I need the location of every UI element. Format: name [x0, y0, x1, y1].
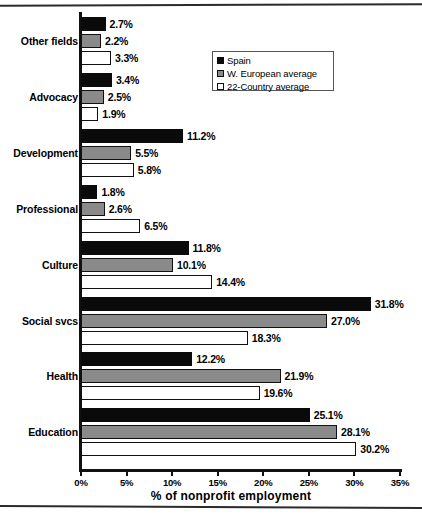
bar-health-spain [81, 352, 192, 366]
bar-development-spain [81, 129, 183, 143]
bar-advocacy-22-country-average [81, 107, 98, 121]
x-tick-20% [262, 470, 264, 476]
bar-value-label: 1.9% [98, 107, 125, 121]
bar-value-label: 21.9% [281, 369, 314, 383]
category-label-development: Development [2, 147, 78, 159]
bar-value-label: 25.1% [310, 408, 343, 422]
bar-other-fields-spain [81, 17, 106, 31]
bar-value-label: 31.8% [371, 297, 404, 311]
category-axis-labels: Other fieldsAdvocacyDevelopmentProfessio… [0, 0, 78, 524]
legend-item-spain: Spain [217, 55, 333, 67]
bar-culture-22-country-average [81, 275, 212, 289]
x-tick-25% [308, 470, 310, 476]
bar-value-label: 11.2% [183, 129, 215, 143]
x-tick-label-10%: 10% [152, 477, 192, 488]
bar-development-w-european-average [81, 146, 131, 160]
x-tick-30% [353, 470, 355, 476]
x-tick-0% [80, 470, 82, 476]
bar-value-label: 12.2% [192, 352, 225, 366]
bar-value-label: 30.2% [356, 442, 389, 456]
bar-value-label: 2.7% [106, 17, 133, 31]
category-label-advocacy: Advocacy [2, 91, 78, 103]
category-label-culture: Culture [2, 259, 78, 271]
chart-legend: Spain W. European average 22-Country ave… [212, 51, 334, 91]
bar-value-label: 10.1% [173, 258, 206, 272]
x-tick-5% [126, 470, 128, 476]
bar-health-22-country-average [81, 386, 260, 400]
x-tick-label-20%: 20% [243, 477, 283, 488]
x-tick-35% [399, 470, 401, 476]
bar-professional-22-country-average [81, 219, 140, 233]
x-tick-10% [171, 470, 173, 476]
bar-professional-spain [81, 185, 97, 199]
x-tick-label-30%: 30% [334, 477, 374, 488]
x-tick-15% [217, 470, 219, 476]
bar-advocacy-spain [81, 73, 112, 87]
bar-education-22-country-average [81, 442, 356, 456]
bar-social-svcs-22-country-average [81, 331, 248, 345]
bar-education-w-european-average [81, 425, 337, 439]
bar-value-label: 28.1% [337, 425, 370, 439]
legend-swatch-icon-spain [217, 57, 224, 64]
category-label-professional: Professional [2, 203, 78, 215]
x-tick-label-5%: 5% [107, 477, 147, 488]
bar-value-label: 1.8% [97, 185, 124, 199]
bar-value-label: 5.8% [134, 163, 161, 177]
bar-development-22-country-average [81, 163, 134, 177]
legend-label-spain: Spain [227, 55, 251, 66]
x-tick-label-35%: 35% [380, 477, 420, 488]
bar-advocacy-w-european-average [81, 90, 104, 104]
bar-value-label: 5.5% [131, 146, 158, 160]
bar-value-label: 3.4% [112, 73, 139, 87]
bar-social-svcs-spain [81, 297, 371, 311]
bar-value-label: 2.6% [105, 202, 132, 216]
bar-health-w-european-average [81, 369, 281, 383]
bar-professional-w-european-average [81, 202, 105, 216]
bar-social-svcs-w-european-average [81, 314, 327, 328]
bar-value-label: 6.5% [140, 219, 167, 233]
legend-swatch-icon-w-european-average [217, 70, 224, 77]
bar-value-label: 14.4% [212, 275, 245, 289]
bar-culture-spain [81, 241, 189, 255]
bar-value-label: 18.3% [248, 331, 281, 345]
category-label-education: Education [2, 426, 78, 438]
category-label-social-svcs: Social svcs [2, 315, 78, 327]
bar-value-label: 2.2% [101, 34, 128, 48]
bar-other-fields-w-european-average [81, 34, 101, 48]
bar-education-spain [81, 408, 310, 422]
legend-swatch-icon-22-country-average [217, 83, 224, 90]
bar-value-label: 11.8% [189, 241, 221, 255]
bar-culture-w-european-average [81, 258, 173, 272]
legend-label-w-european-average: W. European average [227, 68, 317, 79]
category-label-other-fields: Other fields [2, 35, 78, 47]
x-tick-label-25%: 25% [289, 477, 329, 488]
x-tick-label-15%: 15% [198, 477, 238, 488]
legend-label-22-country-average: 22-Country average [227, 81, 309, 92]
bar-value-label: 2.5% [104, 90, 131, 104]
legend-item-22-country-average: 22-Country average [217, 81, 333, 93]
bar-other-fields-22-country-average [81, 51, 111, 65]
bar-value-label: 3.3% [111, 51, 138, 65]
bar-value-label: 19.6% [260, 386, 293, 400]
bar-value-label: 27.0% [327, 314, 360, 328]
category-label-health: Health [2, 370, 78, 382]
legend-item-w-european-average: W. European average [217, 68, 333, 80]
nonprofit-employment-bar-chart: 0%5%10%15%20%25%30%35% % of nonprofit em… [0, 0, 422, 524]
